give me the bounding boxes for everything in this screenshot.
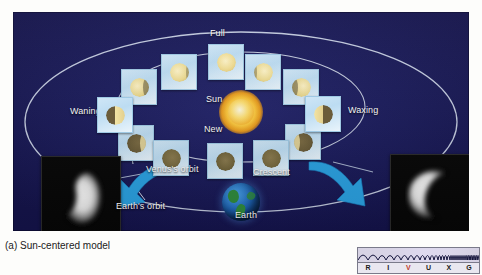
- spectrum-band-v: V: [398, 263, 418, 273]
- phase-tile-quarter-waxing: [305, 96, 341, 132]
- spectrum-waveform: [357, 247, 480, 263]
- phase-disc: [294, 133, 313, 152]
- phase-disc: [262, 149, 281, 168]
- venus-photo-right: [390, 154, 469, 231]
- sun-core: [228, 99, 254, 125]
- phase-disc: [106, 106, 125, 125]
- phase-disc: [314, 105, 333, 124]
- label-crescent: Crescent: [253, 167, 290, 178]
- phase-tile-quarter-waning: [97, 97, 133, 133]
- spectrum-band-i: I: [378, 263, 398, 273]
- label-sun: Sun: [206, 94, 222, 105]
- spectrum-band-x: X: [439, 263, 459, 273]
- phase-tile-gibbous-waning-upper: [161, 54, 197, 90]
- continent-shape: [246, 191, 257, 202]
- venus-photo-left: [41, 156, 121, 231]
- venus-phases-figure: Full New Sun Waning Waxing Crescent Venu…: [0, 0, 482, 275]
- phase-disc: [292, 78, 311, 97]
- phase-disc: [130, 78, 149, 97]
- spectrum-band-g: G: [459, 263, 479, 273]
- continent-shape: [226, 189, 240, 205]
- illustration-panel: Full New Sun Waning Waxing Crescent Venu…: [13, 12, 469, 231]
- label-venus-orbit: Venus's orbit: [146, 164, 199, 175]
- phase-disc-full: [217, 53, 236, 72]
- phase-tile-new: [207, 143, 243, 179]
- arrow-to-right-photo: [309, 162, 365, 206]
- sun-graphic: [219, 90, 263, 134]
- label-earth: Earth: [235, 210, 257, 221]
- figure-caption: (a) Sun-centered model: [5, 240, 110, 251]
- phase-tile-full: [208, 44, 244, 80]
- phase-disc-new: [216, 152, 235, 171]
- label-new: New: [204, 124, 222, 135]
- label-full: Full: [210, 28, 225, 39]
- spectrum-band-r: R: [358, 263, 378, 273]
- spectrum-band-u: U: [419, 263, 439, 273]
- label-waxing: Waxing: [348, 105, 378, 116]
- phase-disc: [254, 63, 273, 82]
- spectrum-bar: R I V U X G: [357, 247, 478, 272]
- phase-disc: [170, 63, 189, 82]
- spectrum-band-labels: R I V U X G: [357, 262, 480, 274]
- label-earth-orbit: Earth's orbit: [116, 201, 165, 212]
- phase-tile-gibbous-waxing-upper: [245, 54, 281, 90]
- phase-disc: [127, 134, 146, 153]
